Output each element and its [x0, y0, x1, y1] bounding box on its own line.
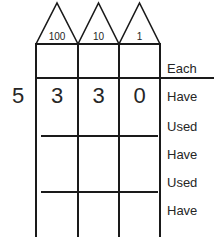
cell-have3-tens[interactable] [79, 193, 118, 236]
roof-label-group: 100 10 1 [49, 31, 143, 42]
row-label-have-2: Have [167, 147, 197, 162]
answer-cells [37, 45, 159, 236]
cell-have2-hundreds[interactable] [37, 137, 77, 191]
place-value-worksheet: 100 10 1 5 3 3 0 Each Have Used Have Use… [0, 0, 214, 249]
multiplier-value: 5 [12, 83, 24, 108]
digit-ones[interactable]: 0 [133, 83, 145, 108]
cell-each-ones[interactable] [120, 45, 159, 77]
row-label-have-1: Have [167, 89, 197, 104]
row-label-used-1: Used [167, 119, 197, 134]
row-label-used-2: Used [167, 175, 197, 190]
digit-hundreds[interactable]: 3 [51, 83, 63, 108]
roof-label-tens: 10 [93, 31, 105, 42]
roof-label-hundreds: 100 [49, 31, 66, 42]
cell-each-tens[interactable] [79, 45, 118, 77]
roof-label-ones: 1 [137, 31, 143, 42]
cell-have3-hundreds[interactable] [37, 193, 77, 236]
have-row-digits: 3 3 0 [51, 83, 146, 108]
row-label-have-3: Have [167, 203, 197, 218]
cell-have2-ones[interactable] [120, 137, 159, 191]
row-label-each: Each [167, 61, 197, 76]
cell-have3-ones[interactable] [120, 193, 159, 236]
worksheet-canvas: 100 10 1 5 3 3 0 Each Have Used Have Use… [0, 0, 214, 249]
cell-have2-tens[interactable] [79, 137, 118, 191]
row-label-group: Each Have Used Have Used Have [167, 61, 197, 218]
digit-tens[interactable]: 3 [92, 83, 104, 108]
cell-each-hundreds[interactable] [37, 45, 77, 77]
